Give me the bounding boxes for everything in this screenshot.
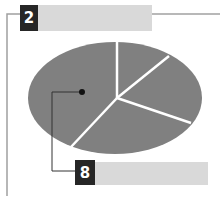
callout-8-number: 8 [80,164,90,182]
callout-8-badge: 8 [75,160,95,185]
pie-ellipse [28,42,202,154]
callout-2-label-box [38,5,152,31]
callout-2-number: 2 [24,9,34,27]
callout-8-label-box [95,162,208,185]
callout-8-pointer-dot [79,89,85,95]
callout-2-badge: 2 [20,5,38,31]
pie-chart [28,42,202,154]
callout-2-leader-line [7,14,20,196]
